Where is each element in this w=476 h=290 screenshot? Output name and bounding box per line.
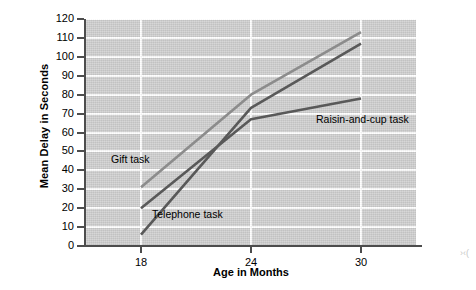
y-tick-mark [77,245,84,247]
plot-area [86,19,416,246]
x-tick-label: 30 [341,256,381,268]
y-tick-mark [77,37,84,39]
y-axis-line [84,19,86,247]
y-tick-mark [77,94,84,96]
y-tick-label: 40 [44,163,74,175]
edge-artifact-text: ›‹( [460,247,474,287]
y-tick-mark [77,150,84,152]
y-tick-label: 100 [44,50,74,62]
x-tick-mark [360,247,362,253]
gridline-vertical [360,19,362,246]
y-tick-label: 60 [44,126,74,138]
y-tick-label: 10 [44,220,74,232]
chart-figure: Mean Delay in Seconds Age in Months Gift… [0,0,476,290]
gridline-vertical [250,19,252,246]
y-tick-label: 50 [44,144,74,156]
y-tick-label: 120 [44,12,74,24]
y-tick-mark [77,56,84,58]
y-tick-mark [77,169,84,171]
x-tick-label: 24 [231,256,271,268]
y-tick-mark [77,226,84,228]
y-tick-label: 70 [44,107,74,119]
x-tick-label: 18 [121,256,161,268]
series-label-raisin-and-cup-task: Raisin-and-cup task [316,113,409,125]
y-tick-mark [77,113,84,115]
y-tick-label: 20 [44,201,74,213]
y-tick-label: 80 [44,88,74,100]
y-tick-label: 110 [44,31,74,43]
y-tick-mark [77,132,84,134]
x-tick-mark [140,247,142,253]
y-tick-mark [77,75,84,77]
x-tick-mark [250,247,252,253]
x-axis-line [84,245,422,247]
series-label-gift-task: Gift task [111,153,150,165]
y-tick-mark [77,188,84,190]
y-tick-label: 90 [44,69,74,81]
y-tick-label: 0 [44,239,74,251]
y-tick-mark [77,18,84,20]
y-tick-label: 30 [44,182,74,194]
y-tick-mark [77,207,84,209]
gridline-vertical [140,19,142,246]
series-label-telephone-task: Telephone task [152,208,223,220]
